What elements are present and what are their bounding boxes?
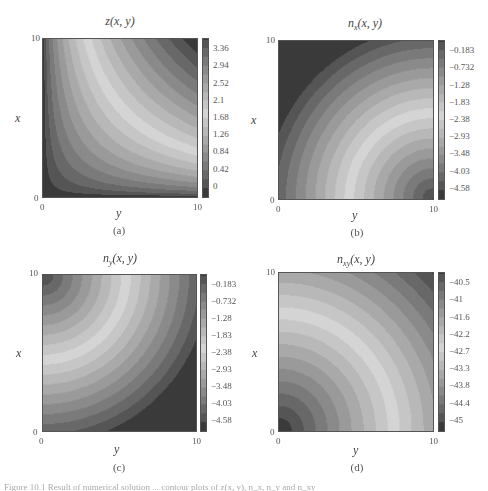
panel-d-xlabel: y xyxy=(353,443,358,458)
panel-d-ytick-bottom: 0 xyxy=(270,427,275,437)
panel-d-colorbar xyxy=(438,272,445,432)
colorbar-tick-label: −0.183 xyxy=(449,45,474,55)
panel-a-xtick-right: 10 xyxy=(193,202,202,212)
colorbar-tick-label: −3.48 xyxy=(211,381,232,391)
panel-a-label: (a) xyxy=(113,224,125,236)
colorbar-tick-label: −2.38 xyxy=(449,114,470,124)
colorbar-tick-label: −41.6 xyxy=(449,312,470,322)
colorbar-tick-label: −42.2 xyxy=(449,329,470,339)
colorbar-tick-label: 0.84 xyxy=(213,146,229,156)
colorbar-tick-label: −2.38 xyxy=(211,347,232,357)
panel-a-xtick-left: 0 xyxy=(40,202,45,212)
colorbar-tick-label: −4.58 xyxy=(211,415,232,425)
colorbar-tick-label: −43.3 xyxy=(449,363,470,373)
panel-b-ylabel: x xyxy=(251,113,256,128)
panel-c-title: ny(x, y) xyxy=(103,251,137,267)
panel-d-title: nxy(x, y) xyxy=(337,252,375,268)
panel-b-label: (b) xyxy=(351,226,364,238)
panel-b-xtick-left: 0 xyxy=(276,204,281,214)
colorbar-tick-label: 2.52 xyxy=(213,78,229,88)
panel-b-colorbar xyxy=(438,40,445,200)
panel-d-ylabel: x xyxy=(252,346,257,361)
panel-b-title: nx(x, y) xyxy=(348,16,382,32)
panel-b-xlabel: y xyxy=(352,208,357,223)
panel-d-xtick-right: 10 xyxy=(429,436,438,446)
colorbar-tick-label: −4.58 xyxy=(449,183,470,193)
colorbar-tick-label: 1.68 xyxy=(213,112,229,122)
colorbar-tick-label: 2.94 xyxy=(213,60,229,70)
panel-a-colorbar xyxy=(202,38,209,198)
panel-c-ytick-top: 10 xyxy=(29,268,38,278)
panel-c-xtick-left: 0 xyxy=(39,436,44,446)
colorbar-tick-label: 0.42 xyxy=(213,164,229,174)
colorbar-tick-label: −45 xyxy=(449,415,463,425)
panel-a-title: z(x, y) xyxy=(105,14,134,29)
panel-b-heatmap xyxy=(278,40,434,200)
colorbar-tick-label: −43.8 xyxy=(449,380,470,390)
colorbar-tick-label: −42.7 xyxy=(449,346,470,356)
colorbar-tick-label: −2.93 xyxy=(449,131,470,141)
panel-c-colorbar xyxy=(200,274,207,432)
colorbar-tick-label: −4.03 xyxy=(449,166,470,176)
panel-d-ytick-top: 10 xyxy=(266,267,275,277)
colorbar-tick-label: −4.03 xyxy=(211,398,232,408)
colorbar-tick-label: −0.183 xyxy=(211,279,236,289)
panel-c-xlabel: y xyxy=(114,442,119,457)
panel-a-ytick-bottom: 0 xyxy=(34,193,39,203)
panel-d-label: (d) xyxy=(351,461,364,473)
panel-b-xtick-right: 10 xyxy=(429,204,438,214)
panel-c-xtick-right: 10 xyxy=(192,436,201,446)
colorbar-tick-label: −0.732 xyxy=(211,296,236,306)
colorbar-tick-label: −1.28 xyxy=(211,313,232,323)
colorbar-tick-label: 0 xyxy=(213,181,218,191)
figure-caption: Figure 10.1 Result of numerical solution… xyxy=(0,482,488,491)
colorbar-tick-label: 3.36 xyxy=(213,43,229,53)
panel-d-heatmap xyxy=(278,272,434,432)
colorbar-tick-label: 1.26 xyxy=(213,129,229,139)
colorbar-tick-label: −2.93 xyxy=(211,364,232,374)
panel-d-xtick-left: 0 xyxy=(276,436,281,446)
colorbar-tick-label: 2.1 xyxy=(213,95,224,105)
colorbar-tick-label: −41 xyxy=(449,294,463,304)
panel-a-ylabel: x xyxy=(15,111,20,126)
colorbar-tick-label: −44.4 xyxy=(449,398,470,408)
panel-b-ytick-bottom: 0 xyxy=(270,195,275,205)
colorbar-tick-label: −3.48 xyxy=(449,148,470,158)
colorbar-tick-label: −40.5 xyxy=(449,277,470,287)
colorbar-tick-label: −1.28 xyxy=(449,80,470,90)
panel-b-ytick-top: 10 xyxy=(266,35,275,45)
colorbar-tick-label: −1.83 xyxy=(449,97,470,107)
colorbar-tick-label: −1.83 xyxy=(211,330,232,340)
panel-c-heatmap xyxy=(42,274,197,432)
panel-c-label: (c) xyxy=(113,461,125,473)
colorbar-tick-label: −0.732 xyxy=(449,62,474,72)
panel-c-ylabel: x xyxy=(16,346,21,361)
panel-a-heatmap xyxy=(42,38,198,198)
panel-a-xlabel: y xyxy=(116,206,121,221)
panel-c-ytick-bottom: 0 xyxy=(33,427,38,437)
panel-a-ytick-top: 10 xyxy=(31,33,40,43)
